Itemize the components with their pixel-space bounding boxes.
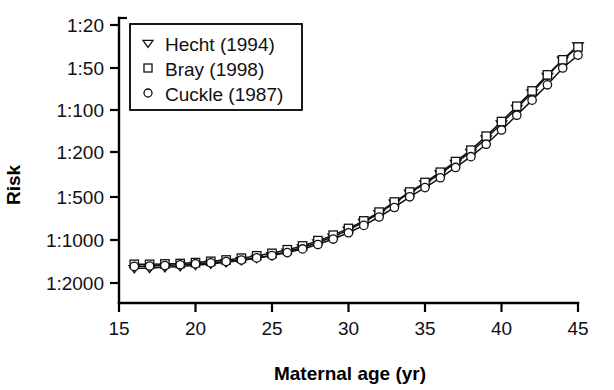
y-tick-label: 1:2000 <box>46 273 104 294</box>
data-point-marker <box>191 260 199 268</box>
data-point-marker <box>283 248 291 256</box>
chart-legend: Hecht (1994)Bray (1998)Cuckle (1987) <box>130 24 302 110</box>
data-point-marker <box>543 71 551 79</box>
x-axis-title: Maternal age (yr) <box>274 363 426 384</box>
data-point-marker <box>451 163 459 171</box>
data-point-marker <box>406 193 414 201</box>
data-point-marker <box>528 87 536 95</box>
x-tick-label: 15 <box>108 318 129 339</box>
legend-item-label: Hecht (1994) <box>165 34 275 55</box>
data-point-marker <box>421 183 429 191</box>
risk-vs-maternal-age-chart: 1:201:501:1001:2001:5001:10001:2000 1520… <box>0 0 614 390</box>
data-point-marker <box>237 256 245 264</box>
data-point-marker <box>497 126 505 134</box>
data-point-marker <box>176 261 184 269</box>
data-point-marker <box>375 213 383 221</box>
data-point-marker <box>145 262 153 270</box>
x-tick-label: 35 <box>414 318 435 339</box>
y-tick-label: 1:20 <box>67 15 104 36</box>
data-point-marker <box>543 81 551 89</box>
data-point-marker <box>329 235 337 243</box>
x-tick-label: 40 <box>491 318 512 339</box>
data-point-marker <box>513 102 521 110</box>
y-axis-title: Risk <box>3 165 24 206</box>
chart-canvas: 1:201:501:1001:2001:5001:10001:2000 1520… <box>0 0 614 390</box>
data-point-marker <box>574 51 582 59</box>
data-point-marker <box>360 221 368 229</box>
data-point-marker <box>298 245 306 253</box>
data-point-marker <box>161 261 169 269</box>
y-tick-label: 1:200 <box>56 142 104 163</box>
y-tick-label: 1:100 <box>56 100 104 121</box>
data-point-marker <box>344 229 352 237</box>
data-point-marker <box>268 251 276 259</box>
data-point-marker <box>559 64 567 72</box>
data-point-marker <box>513 111 521 119</box>
data-point-marker <box>207 259 215 267</box>
x-tick-label: 20 <box>185 318 206 339</box>
legend-item-label: Cuckle (1987) <box>165 84 283 105</box>
data-point-marker <box>574 43 582 51</box>
data-point-marker <box>144 64 152 72</box>
data-point-marker <box>253 254 261 262</box>
data-point-marker <box>482 132 490 140</box>
x-tick-label: 45 <box>567 318 588 339</box>
data-point-marker <box>482 140 490 148</box>
data-point-marker <box>130 262 138 270</box>
legend-item-label: Bray (1998) <box>165 59 264 80</box>
data-point-marker <box>467 152 475 160</box>
y-tick-label: 1:1000 <box>46 230 104 251</box>
data-point-marker <box>436 174 444 182</box>
x-tick-label: 30 <box>338 318 359 339</box>
data-point-marker <box>144 89 152 97</box>
data-point-marker <box>222 257 230 265</box>
data-point-marker <box>497 117 505 125</box>
x-tick-label: 25 <box>261 318 282 339</box>
data-point-marker <box>559 56 567 64</box>
y-tick-label: 1:50 <box>67 58 104 79</box>
data-point-marker <box>528 96 536 104</box>
data-point-marker <box>314 240 322 248</box>
y-tick-label: 1:500 <box>56 187 104 208</box>
legend-item-cuckle[interactable]: Cuckle (1987) <box>144 84 283 105</box>
data-point-marker <box>390 203 398 211</box>
